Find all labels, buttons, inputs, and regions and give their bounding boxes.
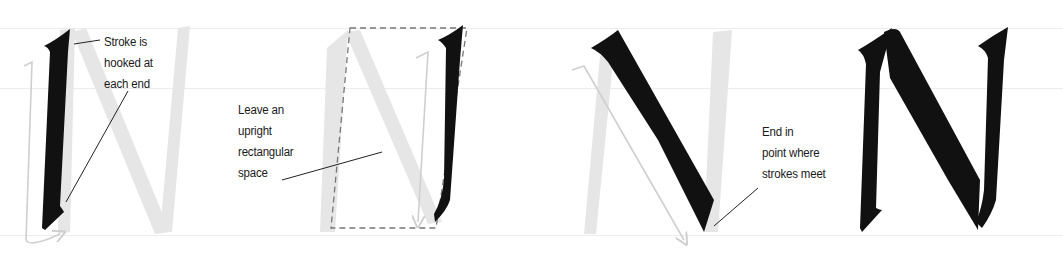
- annotation-line: strokes meet: [762, 164, 826, 185]
- annotation-rectangular-space: Leave an upright rectangular space: [238, 100, 294, 184]
- annotation-line: Stroke is: [104, 32, 153, 53]
- letter-artwork: [0, 0, 1063, 255]
- right-stroke-ink: [434, 25, 463, 222]
- annotation-hooked-ends: Stroke is hooked at each end: [104, 32, 153, 95]
- leader-line-bottom: [66, 91, 128, 202]
- completed-letter-n-right-stroke: [976, 27, 1008, 228]
- annotation-line: each end: [104, 74, 153, 95]
- step-2-figure: [282, 25, 467, 232]
- step-3-figure: [572, 30, 758, 240]
- annotation-line: hooked at: [104, 53, 153, 74]
- annotation-end-in-point: End in point where strokes meet: [762, 122, 826, 185]
- annotation-line: upright: [238, 121, 294, 142]
- annotation-line: End in: [762, 122, 826, 143]
- calligraphy-diagram: Stroke is hooked at each end Leave an up…: [0, 0, 1063, 255]
- annotation-line: rectangular: [238, 142, 294, 163]
- completed-letter-n-diagonal: [884, 29, 980, 230]
- diagonal-stroke-ink: [591, 30, 714, 232]
- annotation-line: space: [238, 163, 294, 184]
- step-4-figure: [858, 27, 1008, 232]
- annotation-line: point where: [762, 143, 826, 164]
- completed-letter-n-left-stroke: [858, 28, 892, 232]
- annotation-line: Leave an: [238, 100, 294, 121]
